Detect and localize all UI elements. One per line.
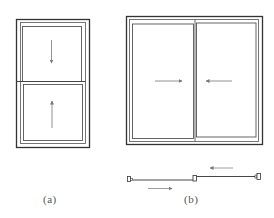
window-diagram <box>0 0 274 218</box>
upper-sash <box>23 27 82 82</box>
inner-frame <box>130 20 259 142</box>
sliding-window-plan <box>128 168 261 189</box>
left-jamb-stop <box>131 179 133 181</box>
sliding-window <box>127 17 263 145</box>
outer-frame <box>17 20 90 148</box>
inner-frame <box>21 23 86 144</box>
lower-sash <box>24 85 83 141</box>
right-sash <box>197 23 257 137</box>
outer-frame <box>127 17 263 145</box>
caption-b: (b) <box>184 193 198 205</box>
caption-a: (a) <box>43 193 57 205</box>
right-jamb <box>257 174 261 180</box>
double-hung-window <box>17 20 90 148</box>
meeting-block <box>193 176 197 182</box>
left-jamb <box>128 177 131 182</box>
